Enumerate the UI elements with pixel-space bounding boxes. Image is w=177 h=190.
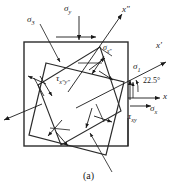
stress-diagram-svg xyxy=(0,0,177,190)
sigma-1-label: σ1 xyxy=(133,62,141,73)
figure-caption: (a) xyxy=(0,170,177,181)
tau-xdoubleprime-ydoubleprime-label: τx″y″ xyxy=(56,74,70,85)
axis-xdoubleprime-line xyxy=(68,14,122,92)
principal-direction-arrows xyxy=(4,104,42,120)
sigma-3-label: σ3 xyxy=(27,15,35,26)
axis-x-label: x xyxy=(163,92,167,101)
sigma-x-label: σx xyxy=(150,104,157,115)
sigma-3-leader xyxy=(40,24,60,62)
angle-arc-22p5 xyxy=(133,80,138,98)
bottom-leader xyxy=(90,133,112,172)
stress-element-figure: σy x″ σ3 σx″ x′ σ1 22.5° τx″y″ x σx τxy … xyxy=(0,0,177,190)
angle-label: 22.5° xyxy=(143,76,160,85)
sigma-xdoubleprime-label: σx″ xyxy=(103,44,112,54)
axis-xprime-label: x′ xyxy=(156,41,162,50)
inner-rotated-square xyxy=(38,47,121,145)
sigma-y-label: σy xyxy=(64,4,71,15)
axis-xdoubleprime-label: x″ xyxy=(122,5,130,14)
axis-xprime-line xyxy=(76,62,166,108)
tau-xy-label: τxy xyxy=(128,112,137,123)
